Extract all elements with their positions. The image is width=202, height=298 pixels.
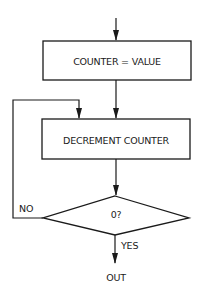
connector-arrow-2	[113, 159, 119, 196]
box2-label: DECREMENT COUNTER	[63, 135, 169, 146]
connector-arrow-1	[113, 80, 119, 119]
out-label: OUT	[106, 272, 126, 283]
entry-arrow	[113, 18, 119, 41]
yes-exit-arrow	[112, 235, 118, 264]
yes-label: YES	[121, 240, 138, 251]
no-label: NO	[19, 203, 33, 214]
flowchart-canvas	[0, 0, 202, 298]
box1-label: COUNTER = VALUE	[73, 56, 161, 67]
decision-label: 0?	[111, 209, 122, 220]
